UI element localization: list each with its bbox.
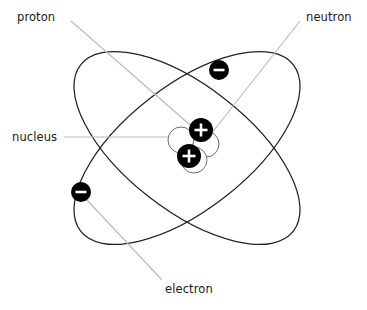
proton-particle-2 xyxy=(177,144,201,168)
electron-particle-2 xyxy=(71,182,91,202)
nucleus-group xyxy=(168,118,219,173)
atom-diagram-canvas: proton neutron nucleus electron xyxy=(0,0,367,310)
atom-diagram: proton neutron nucleus electron xyxy=(0,0,367,310)
label-proton: proton xyxy=(17,10,55,24)
label-nucleus: nucleus xyxy=(12,130,57,144)
electron-particle-1 xyxy=(209,60,229,80)
proton-leader-line xyxy=(71,21,197,131)
neutron-leader-line xyxy=(200,21,300,148)
label-electron: electron xyxy=(165,282,213,296)
electron-leader-line xyxy=(86,199,162,280)
label-neutron: neutron xyxy=(306,10,352,24)
proton-particle-1 xyxy=(189,118,213,142)
